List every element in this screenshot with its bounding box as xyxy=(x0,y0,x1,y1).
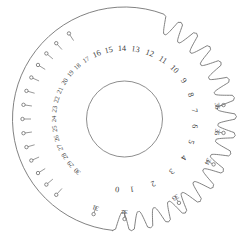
center-hole xyxy=(87,81,163,157)
graduation-tick xyxy=(39,169,45,173)
graduation-number: 12 xyxy=(144,47,155,58)
pin-hole xyxy=(36,171,39,174)
index-disc-figure: 0123456789101112131415161718192021222324… xyxy=(0,0,249,242)
graduation-number: 0 xyxy=(115,185,120,194)
graduation-number: 15 xyxy=(104,45,114,56)
graduation-tick xyxy=(33,78,39,81)
graduation-number: 26 xyxy=(52,134,61,143)
graduation-number: 18 xyxy=(72,61,82,71)
pin-hole xyxy=(25,89,28,92)
graduation-number: 9 xyxy=(179,76,189,84)
pin-hole xyxy=(22,103,25,106)
graduation-tick xyxy=(70,35,74,41)
pin-hole xyxy=(55,42,58,45)
graduation-tick xyxy=(25,105,32,106)
graduation-number: 10 xyxy=(168,63,180,75)
graduation-number: 23 xyxy=(50,105,58,113)
graduation-number: 8 xyxy=(186,91,196,98)
graduation-number: 6 xyxy=(190,124,199,129)
graduation-tick xyxy=(48,54,53,58)
graduation-tick xyxy=(25,132,32,133)
graduation-number: 3 xyxy=(167,167,176,176)
graduation-number: 29 xyxy=(65,159,75,169)
graduation-number: 34 xyxy=(203,157,213,167)
graduation-number: 20 xyxy=(60,76,70,86)
pin-hole xyxy=(45,183,48,186)
graduation-number: 13 xyxy=(131,44,140,54)
graduation-tick xyxy=(48,179,53,183)
graduation-number: 28 xyxy=(59,151,69,161)
pin-hole xyxy=(45,52,48,55)
graduation-tick xyxy=(57,44,62,49)
graduation-number: 5 xyxy=(186,139,196,146)
graduation-number: 35 xyxy=(214,128,222,136)
graduation-number: 7 xyxy=(190,108,199,113)
disc-outline xyxy=(13,7,237,231)
graduation-number: 11 xyxy=(157,54,169,66)
pin-hole xyxy=(67,32,70,35)
pin-hole xyxy=(92,212,95,215)
pin-hole xyxy=(22,132,25,135)
pin-hole xyxy=(55,193,58,196)
graduation-tick xyxy=(33,157,39,160)
pin-hole xyxy=(36,63,39,66)
graduation-number: 4 xyxy=(179,153,189,161)
graduation-number: 22 xyxy=(52,95,61,103)
graduation-tick xyxy=(39,66,45,70)
pin-hole xyxy=(30,159,33,162)
graduation-number: 19 xyxy=(65,68,75,78)
graduation-tick xyxy=(57,188,62,193)
pin-hole xyxy=(123,217,126,220)
graduation-number: 21 xyxy=(55,86,64,95)
graduation-number: 1 xyxy=(129,185,134,194)
graduation-number: 14 xyxy=(118,44,126,53)
pin-hole xyxy=(25,145,28,148)
graduation-number: 24 xyxy=(50,115,57,122)
graduation-number: 2 xyxy=(150,179,157,189)
graduation-tick xyxy=(28,145,35,147)
graduation-number: 16 xyxy=(91,48,102,59)
pin-hole xyxy=(30,76,33,79)
graduation-number: 25 xyxy=(50,124,58,132)
graduation-number: 27 xyxy=(55,143,64,153)
graduation-number: 36 xyxy=(214,102,222,110)
graduation-number: 32 xyxy=(121,209,128,216)
pin-hole xyxy=(222,131,225,134)
graduation-number: 31 xyxy=(91,204,99,213)
graduation-number: 17 xyxy=(81,54,91,64)
graduation-tick xyxy=(28,91,35,93)
index-disc-drawing: 0123456789101112131415161718192021222324… xyxy=(0,0,249,242)
pin-hole xyxy=(21,117,24,120)
disc-outline-group xyxy=(13,7,237,231)
graduation-number-group: 0123456789101112131415161718192021222324… xyxy=(50,44,222,217)
graduation-number: 30 xyxy=(72,166,82,176)
